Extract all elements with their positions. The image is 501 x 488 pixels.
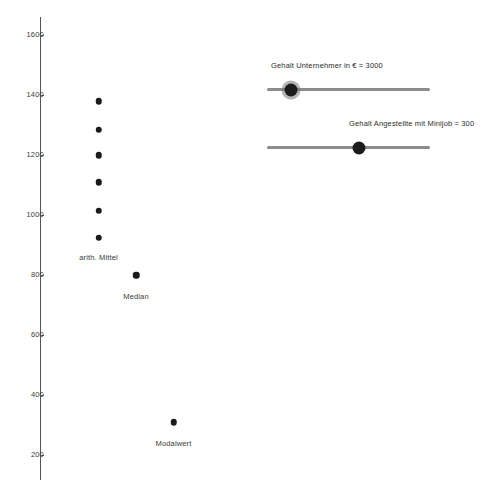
y-axis-tick-label: 200	[10, 451, 44, 459]
y-axis-tick-label: 600	[10, 331, 44, 339]
slider-gehalt-unternehmer-handle[interactable]	[285, 83, 298, 96]
slider-gehalt-unternehmer-label: Gehalt Unternehmer in € = 3000	[271, 62, 383, 70]
data-point	[95, 234, 102, 241]
y-axis-tick-mark	[40, 155, 44, 156]
data-point-label: arith. Mittel	[79, 254, 118, 262]
y-axis-tick-mark	[40, 35, 44, 36]
data-point	[95, 207, 102, 214]
scatter-plot: 1600140012001000800600400200 arith. Mitt…	[0, 0, 501, 488]
y-axis-tick: 1400	[0, 95, 44, 96]
data-point	[133, 272, 140, 279]
y-axis-tick-mark	[40, 395, 44, 396]
y-axis-tick-mark	[40, 95, 44, 96]
y-axis-tick: 1200	[0, 155, 44, 156]
data-point	[95, 179, 102, 186]
y-axis-tick-mark	[40, 215, 44, 216]
slider-gehalt-angestellte-minijob-label: Gehalt Angestellte mit Minijob = 300	[349, 120, 474, 128]
y-axis-tick-label: 1000	[10, 211, 44, 219]
data-point-label: Modalwert	[156, 440, 192, 448]
slider-gehalt-angestellte-minijob-handle[interactable]	[353, 141, 366, 154]
y-axis-tick: 200	[0, 455, 44, 456]
y-axis-tick-label: 1200	[10, 151, 44, 159]
y-axis-tick: 800	[0, 275, 44, 276]
data-point	[95, 126, 102, 133]
data-point	[170, 419, 177, 426]
y-axis-line	[40, 17, 41, 480]
data-point-label: Median	[123, 293, 149, 301]
y-axis-tick-mark	[40, 335, 44, 336]
data-point	[95, 152, 102, 159]
y-axis-tick-label: 400	[10, 391, 44, 399]
y-axis-tick-label: 1600	[10, 31, 44, 39]
y-axis-tick-label: 800	[10, 271, 44, 279]
y-axis-tick-mark	[40, 455, 44, 456]
y-axis-tick: 600	[0, 335, 44, 336]
y-axis-tick: 1000	[0, 215, 44, 216]
y-axis-tick: 400	[0, 395, 44, 396]
data-point	[95, 98, 102, 105]
y-axis-tick-mark	[40, 275, 44, 276]
y-axis-tick: 1600	[0, 35, 44, 36]
y-axis-tick-label: 1400	[10, 91, 44, 99]
chart-canvas: 1600140012001000800600400200 arith. Mitt…	[0, 0, 501, 488]
slider-gehalt-angestellte-minijob-track[interactable]	[267, 146, 430, 149]
